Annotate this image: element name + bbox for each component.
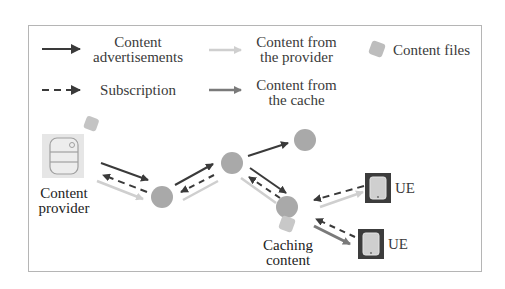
legend-content-file-icon <box>368 40 386 58</box>
caching-content-label-line1: Caching <box>256 238 320 253</box>
legend-label-advertisements: Content advertisements <box>88 35 188 65</box>
ue-label-2: UE <box>388 237 408 252</box>
legend-label-advertisements-line1: Content <box>88 35 188 50</box>
content-provider-label: Content provider <box>32 186 96 216</box>
content-provider-icon <box>42 134 84 178</box>
legend-label-provider-line1: Content from <box>249 35 344 50</box>
legend-label-provider: Content from the provider <box>249 35 344 65</box>
legend-label-subscription: Subscription <box>88 83 188 98</box>
router-node-2 <box>221 152 243 174</box>
ue-device-icon-1 <box>365 173 391 203</box>
legend-label-cache-line1: Content from <box>249 78 344 93</box>
ue-device-icon-2 <box>358 229 384 259</box>
caching-content-label: Caching content <box>256 238 320 268</box>
legend-label-content-files: Content files <box>393 43 470 58</box>
caching-content-label-line2: content <box>256 253 320 268</box>
content-provider-label-line2: provider <box>32 201 96 216</box>
router-node-1 <box>151 186 173 208</box>
cache-content-file-icon <box>278 215 296 233</box>
router-node-3 <box>294 129 316 151</box>
legend-label-cache-line2: the cache <box>249 93 344 108</box>
legend-label-advertisements-line2: advertisements <box>88 50 188 65</box>
legend-label-cache: Content from the cache <box>249 78 344 108</box>
legend-label-provider-line2: the provider <box>249 50 344 65</box>
caching-node <box>276 196 298 218</box>
content-provider-label-line1: Content <box>32 186 96 201</box>
ue-label-1: UE <box>395 181 415 196</box>
provider-content-file-icon <box>83 115 100 132</box>
